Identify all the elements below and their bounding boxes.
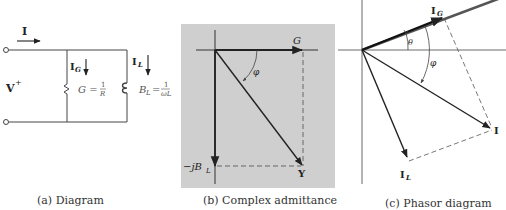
panel-c-caption: (c) Phasor diagram — [385, 197, 492, 210]
current-total-label: I — [22, 25, 27, 38]
voltage-sign: + — [15, 78, 22, 87]
real-axis-label: G — [293, 35, 301, 46]
phasor-current-g-label: I — [431, 5, 436, 16]
admittance-label: Y — [297, 168, 306, 179]
panel-c-phasor: I G I I L θ φ (c) Phasor diagram — [338, 0, 506, 210]
phasor-phi-label: φ — [430, 58, 437, 68]
total-current-phasor — [362, 50, 490, 128]
imag-axis-subscript: L — [205, 167, 211, 175]
bottom-terminal — [4, 120, 9, 125]
top-terminal — [4, 48, 9, 53]
current-l-subscript: L — [137, 60, 143, 69]
conductance-numerator: 1 — [101, 81, 105, 89]
imag-axis-label: −jB — [183, 161, 202, 172]
susceptance-equals: = — [152, 84, 160, 95]
panel-a-circuit: I V + I G G = 1 R I L B L = 1 ωL (a) Dia… — [4, 25, 172, 207]
current-g-phasor — [362, 18, 442, 50]
voltage-label: V — [5, 82, 15, 95]
ac-admittance-figure: I V + I G G = 1 R I L B L = 1 ωL (a) Dia… — [0, 0, 506, 210]
projection-il-to-i — [409, 130, 492, 161]
inductor-icon — [123, 83, 128, 93]
conductance-denominator: R — [99, 90, 106, 98]
projection-ig-to-i — [444, 18, 492, 128]
resistor-branch — [64, 50, 69, 122]
panel-a-caption: (a) Diagram — [37, 194, 104, 207]
phasor-phi-arc-icon — [421, 26, 429, 83]
phasor-current-l-label: I — [400, 169, 405, 180]
inductor-branch — [123, 50, 128, 122]
phasor-current-total-label: I — [494, 125, 499, 136]
panel-b-admittance: G −jB L Y φ (b) Complex admittance — [181, 24, 337, 207]
panel-b-caption: (b) Complex admittance — [203, 194, 337, 207]
current-l-label: I — [132, 56, 137, 67]
phasor-current-g-subscript: G — [437, 9, 443, 18]
phi-label: φ — [253, 67, 260, 77]
theta-label: θ — [408, 38, 413, 47]
susceptance-numerator: 1 — [164, 81, 168, 89]
susceptance-subscript: L — [145, 89, 151, 97]
phasor-current-l-subscript: L — [405, 173, 411, 182]
susceptance-denominator: ωL — [161, 90, 172, 98]
conductance-label: G = — [78, 84, 98, 95]
current-g-subscript: G — [75, 65, 81, 74]
resistor-icon — [64, 84, 69, 94]
current-l-phasor — [362, 50, 407, 157]
